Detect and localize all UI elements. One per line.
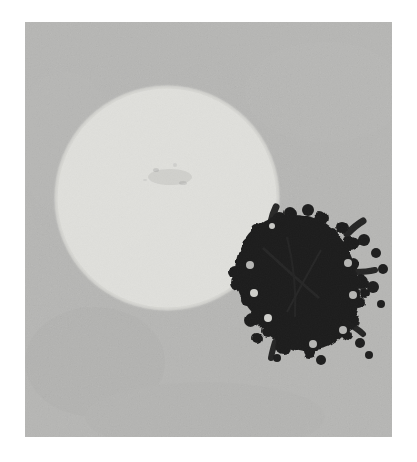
artwork-root: Ink Blot and Disc Composition scanned pr…: [0, 0, 417, 462]
artwork-svg-canvas: [25, 22, 392, 437]
artwork-canvas-panel: [25, 22, 392, 437]
panel-grain-top-overlay: [25, 22, 392, 437]
